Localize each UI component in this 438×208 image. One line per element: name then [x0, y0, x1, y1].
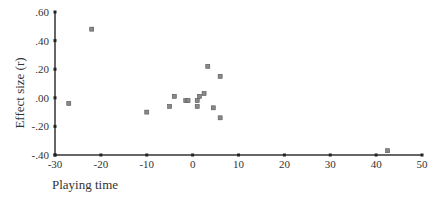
- y-tick-mark: [54, 125, 57, 128]
- x-tick-mark: [54, 154, 57, 157]
- data-point-marker: [206, 64, 210, 68]
- y-tick-mark: [54, 96, 57, 99]
- x-tick-label: 50: [417, 158, 429, 170]
- data-point-marker: [218, 116, 222, 120]
- x-tick-mark: [421, 154, 424, 157]
- y-tick-label: -.20: [32, 120, 50, 132]
- x-tick-mark: [329, 154, 332, 157]
- x-tick-label: 40: [371, 158, 383, 170]
- data-point-marker: [198, 94, 202, 98]
- x-tick-mark: [375, 154, 378, 157]
- data-point-marker: [211, 106, 215, 110]
- y-tick-mark: [54, 11, 57, 14]
- data-point-marker: [168, 104, 172, 108]
- x-tick-label: -30: [48, 158, 63, 170]
- x-tick-label: 30: [325, 158, 337, 170]
- data-point-marker: [218, 74, 222, 78]
- data-point-marker: [67, 102, 71, 106]
- x-tick-mark: [237, 154, 240, 157]
- y-tick-label: .20: [35, 63, 49, 75]
- x-tick-label: 20: [279, 158, 291, 170]
- x-tick-label: -10: [139, 158, 154, 170]
- y-tick-label: .00: [35, 92, 49, 104]
- y-tick-mark: [54, 39, 57, 42]
- y-tick-label: .60: [35, 6, 49, 18]
- x-tick-mark: [145, 154, 148, 157]
- data-point-marker: [195, 99, 199, 103]
- data-point-marker: [90, 27, 94, 31]
- data-point-marker: [145, 110, 149, 114]
- x-tick-mark: [191, 154, 194, 157]
- data-point-marker: [172, 94, 176, 98]
- y-tick-label: .40: [35, 35, 49, 47]
- x-tick-label: 0: [190, 158, 196, 170]
- x-axis-label: Playing time: [52, 177, 118, 193]
- data-point-marker: [202, 92, 206, 96]
- x-tick-mark: [99, 154, 102, 157]
- data-point-marker: [186, 99, 190, 103]
- data-point-marker: [386, 149, 390, 153]
- y-tick-mark: [54, 68, 57, 71]
- data-points: [67, 27, 390, 153]
- x-tick-mark: [283, 154, 286, 157]
- y-axis-label: Effect size (r): [12, 23, 28, 163]
- x-tick-label: 10: [233, 158, 245, 170]
- data-point-marker: [195, 104, 199, 108]
- x-tick-label: -20: [94, 158, 109, 170]
